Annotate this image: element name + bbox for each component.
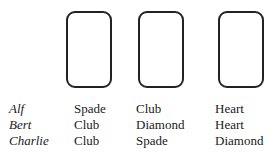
bert-guess-card-3: Heart xyxy=(215,117,244,132)
card-1 xyxy=(66,11,112,88)
charlie-guess-card-1: Club xyxy=(74,133,99,148)
player-name-bert: Bert xyxy=(9,117,31,132)
card-2 xyxy=(138,11,184,88)
alf-guess-card-1: Spade xyxy=(74,101,106,116)
alf-guess-card-2: Club xyxy=(136,101,161,116)
card-3 xyxy=(218,11,264,88)
player-name-charlie: Charlie xyxy=(9,133,49,148)
player-name-alf: Alf xyxy=(9,101,24,116)
bert-guess-card-2: Diamond xyxy=(136,117,184,132)
charlie-guess-card-3: Diamond xyxy=(215,133,263,148)
alf-guess-card-3: Heart xyxy=(215,101,244,116)
charlie-guess-card-2: Spade xyxy=(136,133,168,148)
bert-guess-card-1: Club xyxy=(74,117,99,132)
